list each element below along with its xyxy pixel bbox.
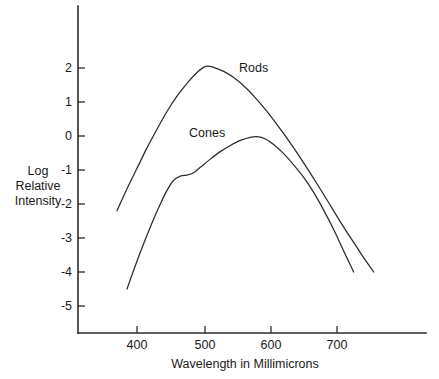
- chart-figure: 2 1 0 -1 -2 -3 -4 -5 400 500 600 700 Wav…: [0, 0, 439, 379]
- y-tick-label-3: -1: [61, 163, 72, 177]
- data-curves: [117, 66, 374, 289]
- y-tick-label-4: -2: [61, 197, 72, 211]
- y-axis-tick-labels: 2 1 0 -1 -2 -3 -4 -5: [61, 61, 72, 313]
- y-axis-title-line-1: Log: [28, 164, 49, 178]
- x-axis-tick-labels: 400 500 600 700: [127, 338, 348, 352]
- y-tick-label-1: 1: [65, 95, 72, 109]
- x-axis-ticks: [137, 326, 337, 333]
- y-tick-label-6: -4: [61, 265, 72, 279]
- curve-rods: [117, 66, 374, 272]
- x-tick-label-1: 500: [195, 338, 216, 352]
- y-tick-label-7: -5: [61, 299, 72, 313]
- y-axis-title: Log Relative Intensity: [15, 164, 62, 208]
- y-tick-label-2: 0: [65, 129, 72, 143]
- series-label-cones: Cones: [189, 126, 225, 140]
- y-tick-label-0: 2: [65, 61, 72, 75]
- y-axis-title-line-2: Relative: [15, 179, 60, 193]
- x-tick-label-3: 700: [327, 338, 348, 352]
- x-tick-label-2: 600: [261, 338, 282, 352]
- x-axis-title: Wavelength in Millimicrons: [171, 357, 319, 371]
- y-tick-label-5: -3: [61, 231, 72, 245]
- series-label-rods: Rods: [239, 61, 268, 75]
- x-tick-label-0: 400: [127, 338, 148, 352]
- spectral-sensitivity-chart: 2 1 0 -1 -2 -3 -4 -5 400 500 600 700 Wav…: [0, 0, 439, 379]
- y-axis-title-line-3: Intensity: [15, 194, 62, 208]
- curve-cones: [127, 137, 354, 289]
- y-axis-ticks: [78, 68, 85, 306]
